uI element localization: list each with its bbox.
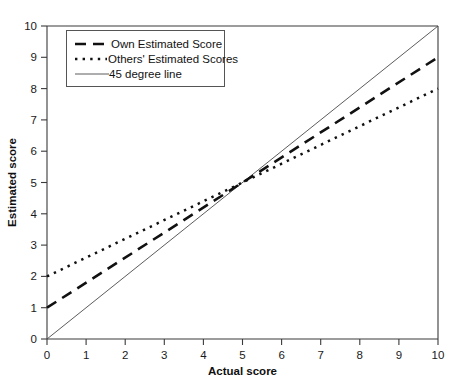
legend-label-45-degree-line: 45 degree line <box>109 68 182 80</box>
cropped-header-text <box>0 0 454 12</box>
legend-label-own-estimated-score: Own Estimated Score <box>111 38 222 50</box>
x-ticklabel-5: 5 <box>239 349 245 361</box>
x-axis-ticklabels: 0 1 2 3 4 5 6 7 8 9 10 <box>44 349 445 361</box>
y-ticklabel-3: 3 <box>31 239 37 251</box>
y-ticklabel-8: 8 <box>31 83 37 95</box>
x-ticklabel-9: 9 <box>396 349 402 361</box>
legend-label-others-estimated-scores: Others' Estimated Scores <box>108 53 238 65</box>
y-ticklabel-2: 2 <box>31 270 37 282</box>
y-axis-title: Estimated score <box>6 138 18 227</box>
y-axis-ticklabels: 10 9 8 7 6 5 4 3 2 1 0 <box>24 20 37 345</box>
x-ticklabel-4: 4 <box>200 349 207 361</box>
y-ticklabel-10: 10 <box>24 20 37 32</box>
x-ticklabel-3: 3 <box>161 349 167 361</box>
x-ticklabel-7: 7 <box>317 349 323 361</box>
chart-canvas: 10 9 8 7 6 5 4 3 2 1 0 0 <box>0 0 454 380</box>
y-ticklabel-6: 6 <box>31 145 37 157</box>
chart-legend: Own Estimated Score Others' Estimated Sc… <box>67 31 239 87</box>
x-ticklabel-1: 1 <box>83 349 89 361</box>
y-ticklabel-1: 1 <box>31 302 37 314</box>
y-ticklabel-0: 0 <box>31 333 37 345</box>
x-ticklabel-10: 10 <box>432 349 445 361</box>
x-ticklabel-8: 8 <box>357 349 363 361</box>
y-ticklabel-9: 9 <box>31 51 37 63</box>
x-ticklabel-0: 0 <box>44 349 50 361</box>
y-ticklabel-4: 4 <box>31 208 38 220</box>
x-axis-ticks <box>47 339 438 345</box>
y-ticklabel-7: 7 <box>31 114 37 126</box>
y-axis-ticks <box>41 26 47 339</box>
chart-figure: 10 9 8 7 6 5 4 3 2 1 0 0 <box>0 0 454 380</box>
x-ticklabel-2: 2 <box>122 349 128 361</box>
x-ticklabel-6: 6 <box>278 349 284 361</box>
y-ticklabel-5: 5 <box>31 177 37 189</box>
x-axis-title: Actual score <box>208 365 277 377</box>
